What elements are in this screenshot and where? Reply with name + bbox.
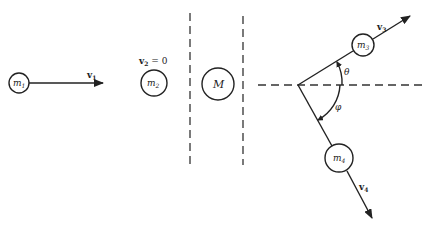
diagram-canvas: m1 v1 m2 v2 = 0 M m3 v3 m4 v4 θ φ [0, 0, 431, 227]
velocity-v2-label: v2 = 0 [138, 56, 168, 67]
theta-arc [337, 62, 342, 85]
theta-label: θ [344, 67, 350, 77]
velocity-v4-label: v4 [358, 182, 368, 193]
particle-m1: m1 v1 [9, 70, 103, 93]
velocity-v3-label: v3 [376, 22, 386, 33]
scattering-diagram: m1 v1 m2 v2 = 0 M m3 v3 m4 v4 θ φ [0, 0, 431, 227]
interaction-region: M [190, 13, 243, 167]
m4-trajectory [298, 85, 332, 146]
compound-M-label: M [212, 78, 225, 91]
angle-phi: φ [318, 85, 342, 120]
angle-theta: θ [337, 62, 350, 85]
velocity-v1-label: v1 [86, 70, 96, 81]
phi-label: φ [335, 102, 342, 112]
particle-m2: m2 v2 = 0 [138, 56, 168, 96]
velocity-v4-arrow [347, 171, 372, 218]
particle-m3: m3 v3 [298, 16, 410, 85]
